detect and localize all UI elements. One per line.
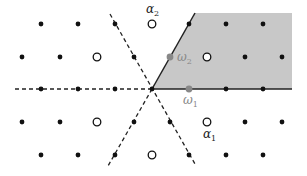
omega1-dot [186, 86, 193, 93]
weight-dot [132, 55, 137, 60]
weight-dot [76, 22, 81, 27]
weight-dot [113, 22, 118, 27]
weight-dot [243, 120, 248, 125]
weight-dot [224, 153, 229, 158]
root-circle [203, 53, 211, 61]
weight-dot [261, 153, 266, 158]
weight-dot [261, 87, 266, 92]
weight-dot [20, 120, 25, 125]
weight-dot [224, 22, 229, 27]
weight-dot [39, 153, 44, 158]
weight-dot [76, 87, 81, 92]
root-circle [148, 20, 156, 28]
weight-dot [58, 120, 63, 125]
weight-dot [224, 87, 229, 92]
weight-dot [280, 55, 285, 60]
root-circle [148, 151, 156, 159]
weight-dot [20, 55, 25, 60]
weight-dot [113, 87, 118, 92]
weight-dot [243, 55, 248, 60]
weight-dot [132, 120, 137, 125]
label-alpha1: α1 [203, 127, 216, 143]
weight-dot [58, 55, 63, 60]
root-circle [93, 53, 101, 61]
weight-dot [261, 22, 266, 27]
omega2-dot [167, 54, 174, 61]
weight-dot [39, 87, 44, 92]
weight-dot [76, 153, 81, 158]
weight-dot [187, 153, 192, 158]
weight-lattice-diagram: α2 ω2 ω1 α1 [0, 0, 307, 176]
label-omega1: ω1 [183, 93, 198, 109]
weight-dot [168, 120, 173, 125]
weight-dot [150, 87, 155, 92]
weight-dot [113, 153, 118, 158]
weight-dot [187, 22, 192, 27]
weight-dot [39, 22, 44, 27]
root-circle [203, 118, 211, 126]
weight-dot [280, 120, 285, 125]
label-alpha2: α2 [146, 2, 159, 18]
root-circle [93, 118, 101, 126]
diagram-canvas: α2 ω2 ω1 α1 [0, 0, 307, 176]
